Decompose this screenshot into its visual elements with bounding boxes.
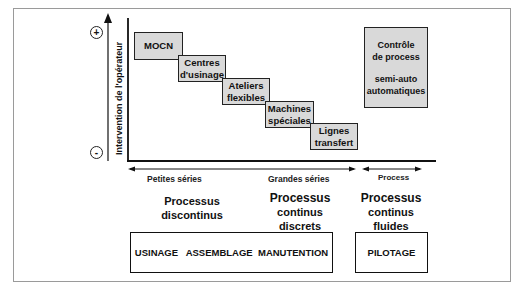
category-line2: continus — [265, 205, 335, 219]
step-ateliers-flexibles: Ateliers flexibles — [222, 78, 270, 105]
arrow-right-icon — [415, 167, 422, 172]
plus-circle-icon: + — [90, 26, 103, 39]
arrow-left-icon — [128, 167, 135, 172]
category-continus-discrets: Processus continus discrets — [265, 191, 335, 233]
category-discontinus: Processus discontinus — [157, 194, 227, 222]
category-line3: fluides — [355, 219, 427, 233]
box-pilotage: PILOTAGE — [355, 232, 428, 273]
step-machines-speciales: Machines spéciales — [265, 101, 314, 128]
box-label: USINAGE ASSEMBLAGE MANUTENTION — [135, 247, 328, 258]
process-line1: Contrôle — [378, 39, 415, 51]
category-line2: discontinus — [157, 208, 227, 222]
step-label-line2: spéciales — [268, 115, 311, 127]
category-line1: Processus — [355, 191, 427, 205]
category-continus-fluides: Processus continus fluides — [355, 191, 427, 233]
step-lignes-transfert: Lignes transfert — [310, 123, 358, 150]
category-line3: discrets — [265, 219, 335, 233]
x-label-process: Process — [378, 173, 409, 182]
step-label-line1: Ateliers — [229, 80, 264, 92]
x-label-petites-series: Petites séries — [147, 174, 202, 184]
category-line1: Processus — [265, 191, 335, 205]
step-label-line2: d'usinage — [180, 69, 224, 81]
x-label-grandes-series: Grandes séries — [268, 174, 329, 184]
step-label-line2: flexibles — [227, 92, 265, 104]
step-label-line2: transfert — [315, 137, 354, 149]
process-line2: de process — [372, 51, 420, 63]
minus-circle-icon: - — [90, 146, 103, 159]
step-label-line1: Centres — [184, 57, 219, 69]
arrow-left-icon — [362, 167, 369, 172]
box-label: PILOTAGE — [368, 247, 416, 258]
process-line4: automatiques — [367, 85, 426, 97]
y-axis-label: Intervention de l'opérateur — [114, 42, 124, 155]
process-line3: semi-auto — [375, 73, 418, 85]
step-label-line1: Lignes — [319, 125, 350, 137]
step-mocn: MOCN — [134, 32, 183, 60]
step-label-line1: Machines — [268, 103, 311, 115]
process-control-box: Contrôle de process semi-auto automatiqu… — [364, 27, 428, 108]
step-centres-usinage: Centres d'usinage — [178, 55, 226, 82]
category-line2: continus — [355, 205, 427, 219]
box-usinage-assemblage-manutention: USINAGE ASSEMBLAGE MANUTENTION — [130, 232, 333, 273]
step-label: MOCN — [144, 40, 173, 52]
arrow-right-icon — [349, 167, 356, 172]
arrow-up-icon — [104, 13, 112, 23]
category-line1: Processus — [157, 194, 227, 208]
